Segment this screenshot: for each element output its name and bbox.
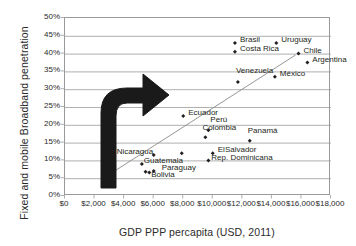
data-point-label: Costa Rica — [240, 44, 279, 53]
data-point-label: México — [280, 69, 305, 78]
data-point-label: Rep. Dominicana — [211, 153, 272, 162]
data-point-label: Brasil — [240, 35, 260, 44]
broadband-vs-gdp-scatter-chart: Fixed and mobile Broadband penetration 0… — [0, 0, 356, 246]
y-tick-label: 25% — [24, 101, 60, 110]
data-point-marker — [144, 170, 148, 174]
data-point-marker — [233, 41, 237, 45]
data-point-label: Panamá — [248, 126, 278, 135]
y-tick-label: 15% — [24, 137, 60, 146]
data-point-marker — [305, 61, 309, 65]
y-tick-label: 30% — [24, 83, 60, 92]
y-tick-label: 10% — [24, 154, 60, 163]
data-point-label: Chile — [303, 46, 321, 55]
data-point-marker — [233, 50, 237, 54]
y-tick-label: 20% — [24, 119, 60, 128]
data-point-label: Argentina — [312, 55, 346, 64]
data-point-label: Nicaragua — [117, 147, 153, 156]
data-point-marker — [180, 151, 184, 155]
plot-area: BrasilCosta RicaUruguayChileArgentinaMéx… — [64, 17, 330, 195]
data-point-marker — [296, 52, 300, 56]
data-point-marker — [248, 139, 252, 143]
y-tick-label: 40% — [24, 48, 60, 57]
y-tick-label: 5% — [24, 172, 60, 181]
data-point-label: Colombia — [202, 123, 236, 132]
y-tick-label: 45% — [24, 30, 60, 39]
data-point-marker — [203, 135, 207, 139]
data-point-label: Uruguay — [281, 35, 311, 44]
data-point-label: Venezuela — [236, 66, 273, 75]
data-point-marker — [181, 114, 185, 118]
y-tick-label: 50% — [24, 12, 60, 21]
data-point-marker — [206, 158, 210, 162]
y-tick-label: 0% — [24, 190, 60, 199]
data-point-label: Bolivia — [151, 170, 175, 179]
data-point-marker — [236, 80, 240, 84]
data-point-marker — [273, 75, 277, 79]
x-axis-title: GDP PPP percapita (USD, 2011) — [64, 226, 330, 238]
y-tick-label: 35% — [24, 65, 60, 74]
